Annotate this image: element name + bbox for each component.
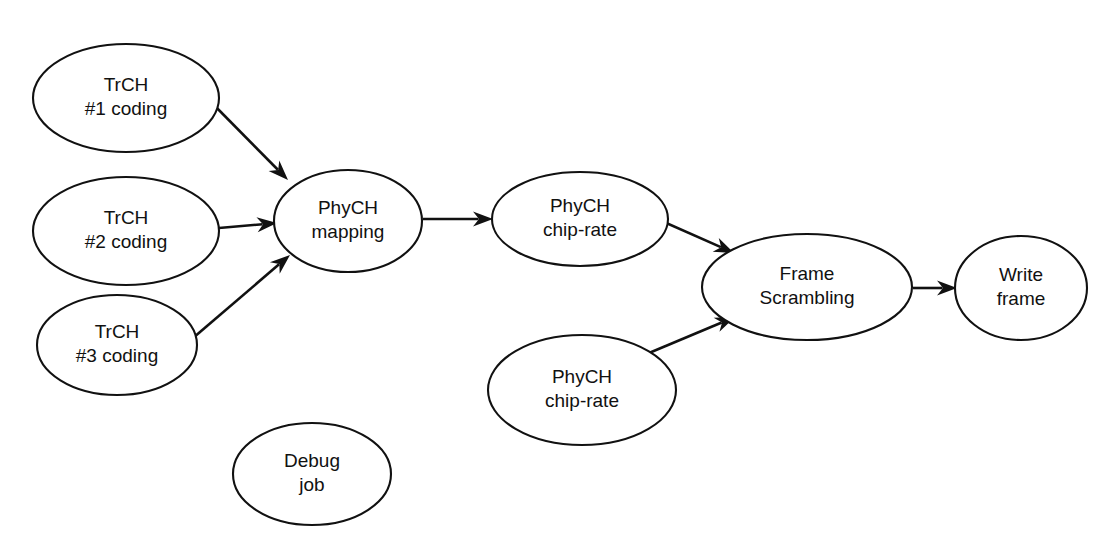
debug-job-label-line-1: Debug [284,450,340,471]
phych-chip-rate-lower-label-line-2: chip-rate [545,390,619,411]
node-phych-chip-rate-lower[interactable]: PhyCHchip-rate [488,335,676,445]
node-phych-mapping[interactable]: PhyCHmapping [274,170,422,272]
phych-mapping-label-line-2: mapping [312,221,385,242]
trch-3-coding-label-line-2: #3 coding [76,345,158,366]
node-frame-scrambling[interactable]: FrameScrambling [702,234,912,340]
trch-1-coding-label-line-1: TrCH [104,74,149,95]
node-trch-3-coding[interactable]: TrCH#3 coding [37,295,197,395]
diagram-canvas: TrCH#1 codingTrCH#2 codingTrCH#3 codingP… [0,0,1118,551]
edge-trch3-to-phych-mapping [193,255,290,338]
edge-trch2-to-phych-mapping [219,217,277,232]
task-graph: TrCH#1 codingTrCH#2 codingTrCH#3 codingP… [0,0,1118,551]
write-frame-label-line-2: frame [997,288,1046,309]
frame-scrambling-label-line-2: Scrambling [759,287,854,308]
trch-2-coding-label-line-2: #2 coding [85,231,167,252]
node-layer: TrCH#1 codingTrCH#2 codingTrCH#3 codingP… [33,44,1087,525]
node-debug-job[interactable]: Debugjob [233,423,391,525]
phych-chip-rate-upper-label-line-2: chip-rate [543,219,617,240]
node-phych-chip-rate-upper[interactable]: PhyCHchip-rate [492,172,668,266]
edge-phych-mapping-to-chip-rate-upper [423,212,493,227]
node-trch-2-coding[interactable]: TrCH#2 coding [33,177,219,285]
trch-3-coding-label-line-1: TrCH [95,321,140,342]
edge-trch3-to-phych-mapping-line [193,264,279,338]
trch-2-coding-label-line-1: TrCH [104,207,149,228]
frame-scrambling-label-line-1: Frame [780,263,835,284]
debug-job-label-line-2: job [298,474,324,495]
phych-chip-rate-lower-label-line-1: PhyCH [552,366,612,387]
write-frame-label-line-1: Write [999,264,1043,285]
phych-mapping-label-line-1: PhyCH [318,197,378,218]
edge-chip-rate-lower-to-frame-scrambling [649,317,735,353]
edge-frame-scrambling-to-write-frame [913,281,957,296]
node-trch-1-coding[interactable]: TrCH#1 coding [33,44,219,152]
phych-chip-rate-upper-label-line-1: PhyCH [550,195,610,216]
edge-trch2-to-phych-mapping-line [219,224,263,228]
edge-chip-rate-lower-to-frame-scrambling-line [649,323,722,353]
edge-trch1-to-phych-mapping-line [208,99,278,170]
edge-trch1-to-phych-mapping [208,99,288,180]
trch-1-coding-label-line-2: #1 coding [85,98,167,119]
node-write-frame[interactable]: Writeframe [955,236,1087,340]
